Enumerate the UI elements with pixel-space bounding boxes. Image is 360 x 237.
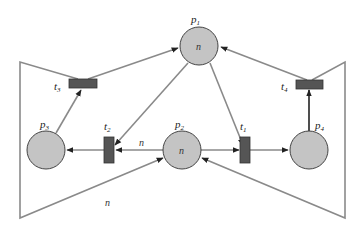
label-p2: p2 bbox=[174, 118, 185, 132]
tokens-p2: n bbox=[179, 145, 184, 156]
petri-net-diagram: p1 p2 p3 p4 n n t1 t2 t3 t4 n n bbox=[0, 0, 360, 237]
arc-weight-p2-t2: n bbox=[139, 137, 144, 148]
label-t3: t3 bbox=[54, 80, 61, 94]
transition-t3 bbox=[69, 79, 97, 88]
tokens-p1: n bbox=[196, 41, 201, 52]
transition-t2 bbox=[104, 137, 114, 163]
label-t1: t1 bbox=[240, 120, 247, 134]
label-p3: p3 bbox=[39, 118, 50, 132]
label-p4: p4 bbox=[314, 119, 325, 133]
transition-t4 bbox=[296, 80, 323, 89]
label-t4: t4 bbox=[281, 80, 288, 94]
arc-t3-p1 bbox=[88, 48, 178, 79]
place-p4 bbox=[290, 131, 328, 169]
arc-weight-t3-p2: n bbox=[105, 197, 110, 208]
arc-p3-t3 bbox=[56, 90, 81, 133]
place-p3 bbox=[27, 131, 65, 169]
label-p1: p1 bbox=[190, 13, 200, 27]
arc-t4-p1 bbox=[221, 47, 307, 80]
label-t2: t2 bbox=[104, 120, 111, 134]
transition-t1 bbox=[240, 137, 250, 163]
arc-p1-t1 bbox=[210, 63, 243, 145]
